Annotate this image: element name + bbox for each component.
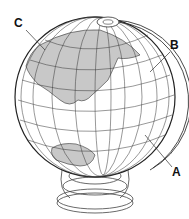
label-c: C (14, 16, 23, 30)
label-b: B (170, 38, 179, 52)
globe-diagram (0, 0, 189, 219)
globe-sphere (15, 17, 189, 177)
label-a: A (172, 165, 181, 179)
